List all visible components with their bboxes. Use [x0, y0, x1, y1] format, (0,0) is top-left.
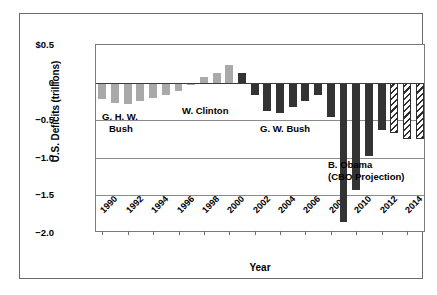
bar: [276, 83, 284, 114]
bar: [136, 83, 144, 102]
x-tick: [356, 231, 357, 235]
x-tick: [280, 231, 281, 235]
y-axis-title: U.S. Deficits (trillions): [50, 37, 61, 187]
bar: [365, 83, 373, 157]
x-tick: [407, 231, 408, 235]
bar: [416, 83, 424, 139]
x-tick: [305, 231, 306, 235]
bar: [213, 73, 221, 83]
zero-line: [96, 83, 424, 84]
y-tick-label: $0.5: [8, 39, 54, 50]
annotation-gw-bush-line1: G. W. Bush: [260, 123, 310, 135]
x-tick: [331, 231, 332, 235]
bar: [238, 73, 246, 83]
annotation-clinton-line1: W. Clinton: [182, 105, 228, 117]
x-tick: [153, 231, 154, 235]
annotation-obama-line2: (CBO Projection): [328, 171, 405, 183]
y-tick-label: −0.5: [8, 114, 54, 125]
x-tick: [179, 231, 180, 235]
annotation-ghw-bush-line1: G. H. W.: [102, 111, 138, 123]
bar: [340, 83, 348, 222]
bar: [98, 83, 106, 100]
bar: [263, 83, 271, 112]
bar: [403, 83, 411, 139]
bar: [225, 65, 233, 83]
x-tick: [382, 231, 383, 235]
bar: [301, 83, 309, 102]
bar: [289, 83, 297, 107]
bar: [378, 83, 386, 130]
annotation-clinton: W. Clinton: [182, 105, 228, 117]
figure-border: U.S. Deficits (trillions) $0.50−0.5−1.0−…: [19, 13, 423, 279]
x-axis-title: Year: [95, 262, 425, 273]
bar: [314, 83, 322, 95]
bar: [251, 83, 259, 95]
x-tick: [102, 231, 103, 235]
bar: [149, 83, 157, 98]
gridline: [96, 120, 424, 121]
bar: [162, 83, 170, 95]
y-tick-label: −2.0: [8, 227, 54, 238]
y-tick-label: 0: [8, 76, 54, 87]
annotation-gw-bush: G. W. Bush: [260, 123, 310, 135]
x-tick: [255, 231, 256, 235]
deficit-chart-figure: U.S. Deficits (trillions) $0.50−0.5−1.0−…: [0, 0, 437, 295]
annotation-ghw-bush: G. H. W. Bush: [102, 111, 138, 134]
bar: [175, 83, 183, 91]
x-tick: [229, 231, 230, 235]
gridline: [96, 195, 424, 196]
x-tick: [204, 231, 205, 235]
bar: [327, 83, 335, 118]
bar: [111, 83, 119, 103]
bar: [390, 83, 398, 133]
annotation-obama-line1: B. Obama: [328, 159, 405, 171]
y-tick-label: −1.0: [8, 151, 54, 162]
y-tick-label: −1.5: [8, 189, 54, 200]
bar: [124, 83, 132, 105]
annotation-ghw-bush-line2: Bush: [102, 123, 138, 135]
x-tick: [128, 231, 129, 235]
annotation-obama: B. Obama (CBO Projection): [328, 159, 405, 182]
